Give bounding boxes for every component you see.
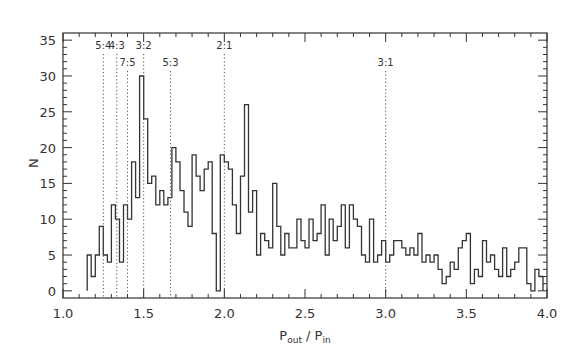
x-axis-title: Pout / Pin — [279, 328, 330, 345]
x-tick-label: 3.0 — [375, 306, 396, 321]
y-tick-label: 0 — [48, 284, 56, 299]
y-tick-label: 5 — [48, 248, 56, 263]
histogram-steps — [87, 76, 543, 291]
y-tick-label: 30 — [39, 69, 56, 84]
x-axis-ticks: 1.01.52.02.53.03.54.0 — [53, 33, 558, 321]
resonance-label: 5:3 — [163, 57, 179, 68]
x-tick-label: 2.0 — [214, 306, 235, 321]
y-tick-label: 15 — [39, 176, 56, 191]
resonance-label: 4:3 — [109, 40, 125, 51]
y-tick-label: 25 — [39, 105, 56, 120]
y-tick-label: 35 — [39, 33, 56, 48]
resonance-label: 7:5 — [119, 57, 135, 68]
x-tick-label: 2.5 — [295, 306, 316, 321]
resonance-label: 3:1 — [378, 57, 394, 68]
x-tick-label: 1.5 — [133, 306, 154, 321]
y-tick-label: 10 — [39, 212, 56, 227]
x-tick-label: 1.0 — [53, 306, 74, 321]
y-tick-label: 20 — [39, 141, 56, 156]
y-axis-title: N — [26, 158, 41, 168]
histogram-line — [87, 76, 543, 291]
histogram-chart: 5:44:37:53:25:32:13:1 1.01.52.02.53.03.5… — [0, 0, 577, 354]
x-tick-label: 3.5 — [456, 306, 477, 321]
x-tick-label: 4.0 — [537, 306, 558, 321]
